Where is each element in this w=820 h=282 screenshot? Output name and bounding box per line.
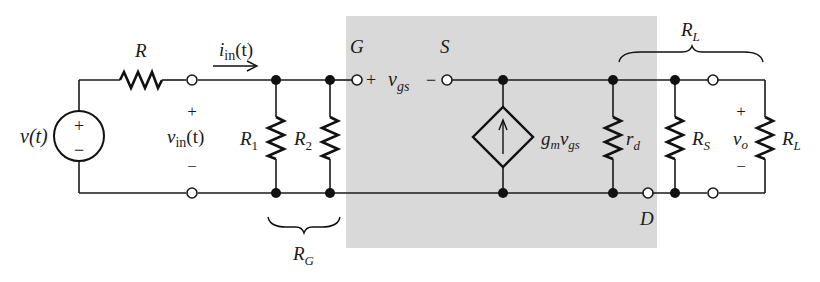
node-r1-bottom — [271, 188, 281, 198]
node-rd-bottom — [608, 188, 618, 198]
voltage-source: + − — [54, 111, 104, 161]
node-gm-bottom — [498, 188, 508, 198]
circuit-diagram: + − v(t) R iin(t) + vin(t) − R1 R2 RG — [0, 0, 820, 282]
vo-label: vo — [733, 128, 748, 152]
source-minus: − — [74, 140, 84, 160]
node-r2-bottom — [325, 188, 335, 198]
resistor-r — [120, 72, 162, 88]
resistor-rl-label: RL — [781, 128, 801, 153]
node-gm-top — [498, 75, 508, 85]
gate-label: G — [350, 36, 364, 57]
rg-label: RG — [292, 243, 315, 268]
resistor-r-label: R — [134, 40, 147, 61]
resistor-r1-label: R1 — [239, 128, 258, 153]
output-terminal-bottom — [708, 188, 718, 198]
resistor-rs-label: RS — [691, 128, 711, 153]
vin-label: vin(t) — [167, 126, 204, 150]
source-label-s: S — [440, 36, 450, 57]
drain-label: D — [639, 208, 654, 229]
source-terminal — [442, 75, 452, 85]
input-current-label: iin(t) — [219, 39, 253, 63]
vin-minus: − — [187, 157, 197, 176]
vgs-plus: + — [366, 70, 376, 90]
node-rd-top — [608, 75, 618, 85]
node-r1-top — [271, 75, 281, 85]
resistor-r1 — [268, 117, 284, 159]
output-terminal-top — [708, 75, 718, 85]
resistor-rs — [667, 117, 683, 159]
drain-terminal — [643, 188, 653, 198]
resistor-r2-label: R2 — [293, 128, 312, 153]
vo-plus: + — [736, 102, 746, 121]
rl-prime-label: RL — [680, 19, 700, 44]
vgs-minus: − — [426, 70, 436, 90]
resistor-rl — [757, 117, 773, 159]
vo-minus: − — [736, 157, 746, 176]
node-rs-top — [670, 75, 680, 85]
node-rs-bottom — [670, 188, 680, 198]
source-label: v(t) — [20, 125, 48, 148]
fet-model-region — [346, 16, 657, 248]
resistor-r2 — [322, 117, 338, 159]
vin-plus: + — [187, 102, 197, 121]
rg-brace — [268, 217, 340, 233]
source-plus: + — [74, 116, 84, 136]
input-terminal-bottom — [187, 188, 197, 198]
gate-terminal — [352, 75, 362, 85]
input-terminal-top — [187, 75, 197, 85]
